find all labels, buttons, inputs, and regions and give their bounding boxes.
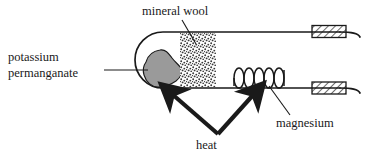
label-potassium-permanganate-line2: permanganate	[8, 66, 78, 80]
label-potassium-permanganate: potassium permanganate	[8, 49, 128, 81]
leader-line-magnesium	[269, 86, 290, 115]
label-potassium-permanganate-line1: potassium	[8, 50, 59, 64]
clamp-lower	[312, 82, 346, 94]
heat-arrow-left	[172, 94, 218, 134]
magnesium-coil	[234, 68, 284, 88]
heat-arrow-right	[218, 94, 254, 134]
clamp-upper	[312, 26, 346, 38]
label-magnesium: magnesium	[276, 116, 334, 131]
mineral-wool-plug	[180, 33, 216, 87]
potassium-permanganate-sample	[143, 50, 182, 87]
diagram-canvas: mineral wool potassium permanganate heat…	[0, 0, 381, 159]
label-mineral-wool: mineral wool	[142, 4, 208, 19]
label-heat: heat	[196, 138, 217, 153]
